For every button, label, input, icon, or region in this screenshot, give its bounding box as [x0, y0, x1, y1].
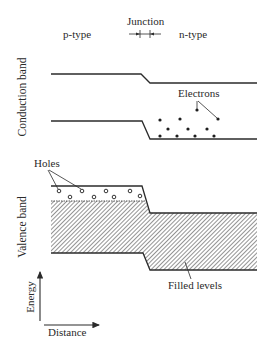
energy-axis-label: Energy — [24, 281, 36, 313]
junction-label: Junction — [127, 15, 165, 27]
conduction-band-label: Conduction band — [16, 57, 28, 136]
hole-circle — [104, 189, 108, 193]
holes-label: Holes — [34, 157, 60, 169]
electron-dot — [193, 134, 196, 137]
hole-circle — [92, 195, 96, 199]
filled-levels-hatched-region — [51, 201, 257, 270]
hole-circle — [138, 194, 142, 198]
electrons-label: Electrons — [178, 87, 220, 99]
hole-circle — [57, 189, 61, 193]
electrons-pointer-lines — [197, 101, 217, 118]
p-type-label: p-type — [63, 28, 91, 40]
pn-junction-band-diagram: p-type Junction n-type Conduction band V… — [0, 0, 268, 355]
electron-dot — [175, 134, 178, 137]
electrons — [158, 108, 219, 137]
electron-dot — [205, 127, 208, 130]
electron-dot — [158, 118, 161, 121]
electron-dot — [212, 134, 215, 137]
hole-circle — [112, 195, 116, 199]
electron-dot — [158, 134, 161, 137]
conduction-band-edge-line — [51, 121, 257, 139]
electron-dot — [178, 117, 181, 120]
n-type-label: n-type — [179, 28, 207, 40]
hole-circle — [128, 189, 132, 193]
electron-dot — [186, 127, 189, 130]
junction-width-marker — [129, 30, 161, 38]
conduction-band-upper-line — [51, 74, 257, 83]
hole-circle — [80, 189, 84, 193]
valence-band-label: Valence band — [16, 196, 28, 258]
distance-axis-label: Distance — [48, 326, 87, 338]
filled-levels-label: Filled levels — [168, 279, 222, 291]
hole-circle — [68, 195, 72, 199]
holes — [57, 189, 142, 199]
electron-dot — [166, 127, 169, 130]
